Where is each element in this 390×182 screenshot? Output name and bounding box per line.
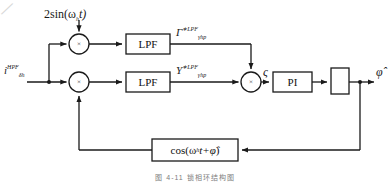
label-zeta-signal: ς — [263, 66, 268, 78]
label-upsilon-lpf: Υ∗LPFγhp — [176, 64, 206, 78]
block-label-pi: PI — [273, 72, 312, 92]
label-gamma-lpf: Γ∗LPFγhp — [176, 26, 206, 40]
cos-label-end: ) — [216, 144, 220, 156]
label-output-phase: φ̂ — [376, 66, 383, 78]
node-branch-point-input — [47, 80, 51, 84]
input-sup: HPF — [7, 64, 19, 70]
input-sub: δh — [19, 72, 25, 78]
figure-caption: 图 4-11 锁相环结构图 — [0, 172, 390, 182]
block-label-lpf-top: LPF — [126, 34, 170, 54]
block-label-cos-feedback: cos(ωht+φ̂) — [152, 139, 238, 161]
mod-head: 2sin(ω — [44, 7, 76, 21]
mod-tail: t) — [79, 7, 86, 21]
gamma-sup: ∗LPF — [182, 26, 198, 32]
summing-junction-glyph: × — [243, 78, 259, 86]
cos-label-mid: t+ — [199, 144, 209, 156]
upsilon-sup: ∗LPF — [182, 64, 198, 70]
label-input-current: iHPFδh — [4, 64, 25, 78]
multiplier-top-glyph: × — [71, 40, 87, 48]
upsilon-sub: γhp — [198, 72, 206, 78]
block-diagram-figure: / — [0, 0, 390, 182]
gamma-sub: γhp — [198, 34, 206, 40]
multiplier-bottom-glyph: × — [71, 78, 87, 86]
block-label-lpf-bottom: LPF — [126, 72, 170, 92]
node-branch-point-output — [358, 80, 362, 84]
label-modulation-signal: 2sin(ωht) — [44, 8, 86, 22]
block-integrator — [331, 68, 349, 94]
cos-label-head: cos(ω — [171, 144, 197, 156]
